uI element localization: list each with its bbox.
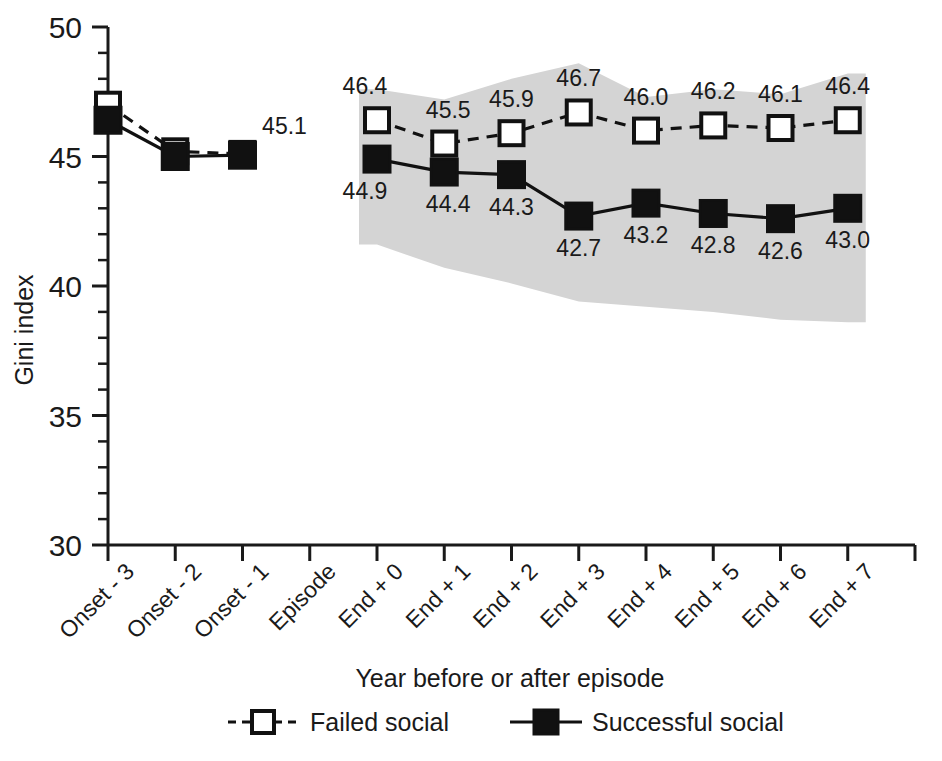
data-point-label: 42.6 bbox=[758, 238, 803, 264]
x-axis-tick-labels: Onset - 3Onset - 2Onset - 1EpisodeEnd + … bbox=[54, 558, 879, 643]
data-point-label: 46.4 bbox=[343, 73, 388, 99]
data-point-label: 43.2 bbox=[624, 222, 669, 248]
data-point-label: 44.4 bbox=[426, 191, 471, 217]
legend-item-successful-social[interactable]: Successful social bbox=[510, 708, 784, 736]
y-tick-label: 35 bbox=[49, 400, 82, 433]
data-point-label: 44.3 bbox=[489, 194, 534, 220]
data-marker-failed-social[interactable] bbox=[432, 132, 456, 156]
data-point-label: 45.1 bbox=[262, 113, 307, 139]
data-point-label: 46.0 bbox=[624, 84, 669, 110]
data-marker-successful-social[interactable] bbox=[431, 159, 457, 185]
data-marker-successful-social[interactable] bbox=[499, 162, 525, 188]
data-marker-failed-social[interactable] bbox=[567, 100, 591, 124]
x-tick-label: End + 1 bbox=[401, 558, 476, 633]
chart-container: 5045403530 Onset - 3Onset - 2Onset - 1Ep… bbox=[0, 0, 942, 761]
data-marker-failed-social[interactable] bbox=[365, 108, 389, 132]
x-tick-label: End + 6 bbox=[737, 558, 812, 633]
legend-filled-square-icon bbox=[534, 710, 558, 734]
data-marker-successful-social[interactable] bbox=[364, 146, 390, 172]
data-point-label: 43.0 bbox=[825, 227, 870, 253]
y-tick-label: 30 bbox=[49, 529, 82, 562]
data-point-label: 45.5 bbox=[426, 97, 471, 123]
x-axis-group: Onset - 3Onset - 2Onset - 1EpisodeEnd + … bbox=[54, 545, 915, 643]
x-tick-label: End + 4 bbox=[602, 558, 677, 633]
data-marker-failed-social[interactable] bbox=[769, 116, 793, 140]
x-tick-label: End + 0 bbox=[333, 558, 408, 633]
data-marker-successful-social[interactable] bbox=[162, 144, 188, 170]
data-marker-successful-social[interactable] bbox=[230, 142, 256, 168]
data-point-label: 46.1 bbox=[758, 81, 803, 107]
data-marker-successful-social[interactable] bbox=[566, 203, 592, 229]
data-marker-failed-social[interactable] bbox=[500, 121, 524, 145]
legend-open-square-icon bbox=[252, 711, 274, 733]
data-marker-successful-social[interactable] bbox=[835, 195, 861, 221]
x-tick-label: End + 5 bbox=[670, 558, 745, 633]
x-tick-label: Episode bbox=[264, 558, 341, 635]
y-axis-title: Gini index bbox=[10, 274, 38, 386]
data-marker-successful-social[interactable] bbox=[633, 190, 659, 216]
data-point-label: 46.4 bbox=[825, 73, 870, 99]
data-point-label: 42.7 bbox=[556, 235, 601, 261]
data-point-label: 45.9 bbox=[489, 86, 534, 112]
y-tick-label: 45 bbox=[49, 141, 82, 174]
chart-legend: Failed social Successful social bbox=[228, 708, 784, 736]
data-marker-successful-social[interactable] bbox=[700, 200, 726, 226]
data-point-label: 46.7 bbox=[556, 65, 601, 91]
data-marker-failed-social[interactable] bbox=[634, 119, 658, 143]
data-point-label: 44.9 bbox=[343, 178, 388, 204]
legend-label-failed-social: Failed social bbox=[310, 708, 449, 736]
y-axis-tick-labels: 5045403530 bbox=[49, 11, 82, 562]
data-marker-failed-social[interactable] bbox=[701, 113, 725, 137]
gini-index-line-chart: 5045403530 Onset - 3Onset - 2Onset - 1Ep… bbox=[0, 0, 942, 761]
x-tick-label: End + 2 bbox=[468, 558, 543, 633]
x-axis-title: Year before or after episode bbox=[355, 664, 664, 692]
x-tick-label: End + 3 bbox=[535, 558, 610, 633]
data-point-label: 42.8 bbox=[691, 232, 736, 258]
x-tick-label: End + 7 bbox=[804, 558, 879, 633]
x-tick-label: Onset - 1 bbox=[188, 558, 273, 643]
y-tick-label: 50 bbox=[49, 11, 82, 44]
data-point-label: 46.2 bbox=[691, 78, 736, 104]
y-tick-label: 40 bbox=[49, 270, 82, 303]
data-marker-successful-social[interactable] bbox=[95, 107, 121, 133]
legend-item-failed-social[interactable]: Failed social bbox=[228, 708, 449, 736]
x-axis-ticks bbox=[108, 545, 915, 561]
data-marker-failed-social[interactable] bbox=[836, 108, 860, 132]
legend-label-successful-social: Successful social bbox=[592, 708, 784, 736]
data-marker-successful-social[interactable] bbox=[768, 206, 794, 232]
